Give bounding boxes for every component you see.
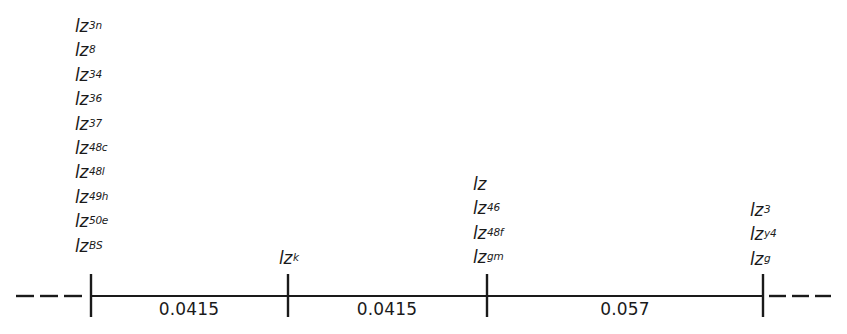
allele-label: lz — [473, 172, 503, 196]
allele-label: lzgm — [473, 245, 503, 269]
allele-label: lzBS — [75, 234, 108, 258]
allele-label: lzy4 — [750, 222, 776, 246]
allele-label: lz34 — [75, 63, 108, 87]
allele-label: lz48f — [473, 221, 503, 245]
interval-distance-3: 0.057 — [600, 299, 650, 319]
allele-label: lz49h — [75, 185, 108, 209]
allele-stack-locus-4: lz3 lzy4 lzg — [750, 198, 776, 271]
allele-label: lz48c — [75, 136, 108, 160]
interval-distance-1: 0.0415 — [159, 299, 220, 319]
allele-label: lz46 — [473, 196, 503, 220]
allele-stack-locus-3: lz lz46 lz48f lzgm — [473, 172, 503, 270]
interval-distance-2: 0.0415 — [357, 299, 418, 319]
allele-label: lzk — [279, 246, 299, 270]
allele-label: lz3n — [75, 14, 108, 38]
allele-label: lz37 — [75, 112, 108, 136]
allele-label: lz36 — [75, 87, 108, 111]
allele-label: lz48l — [75, 160, 108, 184]
allele-label: lz8 — [75, 38, 108, 62]
allele-stack-locus-1: lz3n lz8 lz34 lz36 lz37 lz48c lz48l lz49… — [75, 14, 108, 258]
allele-label: lzg — [750, 247, 776, 271]
map-axis — [0, 0, 847, 334]
allele-label: lz3 — [750, 198, 776, 222]
allele-label: lz50e — [75, 209, 108, 233]
allele-stack-locus-2: lzk — [279, 246, 299, 270]
